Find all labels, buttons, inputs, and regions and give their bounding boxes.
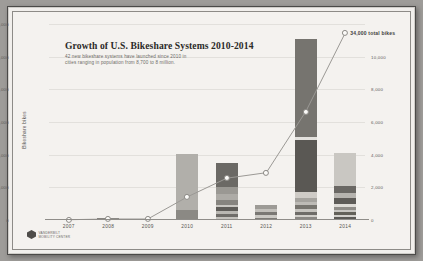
y-axis-left-tick-label: 2,000 xyxy=(0,185,9,190)
y-axis-left-tick-label: 6,000 xyxy=(0,120,9,125)
total-bikes-annotation: 34,000 total bikes xyxy=(350,30,395,36)
x-axis-tick-label: 2014 xyxy=(339,224,351,229)
y-axis-right-tick-label: 8,000 xyxy=(371,87,383,92)
y-axis-left-tick-label: 10,000 xyxy=(0,54,9,59)
y-axis-right-tick-label: 2,000 xyxy=(371,185,383,190)
x-axis-tick-label: 2009 xyxy=(142,224,154,229)
x-axis-tick-label: 2007 xyxy=(63,224,75,229)
title-block: Growth of U.S. Bikeshare Systems 2010-20… xyxy=(65,40,275,67)
chart-inner-frame: Bikeshare bikes 12,00010,0008,0006,0004,… xyxy=(12,11,411,250)
x-axis-tick-label: 2013 xyxy=(300,224,312,229)
x-axis-tick-label: 2010 xyxy=(181,224,193,229)
x-axis-tick-label: 2011 xyxy=(221,224,233,229)
scanned-page: Bikeshare bikes 12,00010,0008,0006,0004,… xyxy=(0,0,423,261)
y-axis-left-tick-label: 4,000 xyxy=(0,152,9,157)
page-title: Growth of U.S. Bikeshare Systems 2010-20… xyxy=(65,40,275,51)
y-axis-right-tick-label: 4,000 xyxy=(371,152,383,157)
logo-line-2: MOBILITY CENTER xyxy=(39,235,71,239)
y-axis-left-tick-label: 8,000 xyxy=(0,87,9,92)
y-axis-left-tick-label: 0 xyxy=(6,218,9,223)
x-axis-tick-label: 2012 xyxy=(260,224,272,229)
subtitle-line-2: cities ranging in population from 8,700 … xyxy=(65,60,275,66)
logo: VANDERBILT MOBILITY CENTER xyxy=(27,230,70,239)
y-axis-left-tick-label: 12,000 xyxy=(0,22,9,27)
chart-paper: Bikeshare bikes 12,00010,0008,0006,0004,… xyxy=(7,6,416,255)
x-axis-tick-label: 2008 xyxy=(102,224,114,229)
hexagon-logo-icon xyxy=(27,230,36,239)
logo-text: VANDERBILT MOBILITY CENTER xyxy=(39,231,71,239)
y-axis-right-tick-label: 6,000 xyxy=(371,120,383,125)
x-axis-line xyxy=(45,219,369,220)
y-axis-label: Bikeshare bikes xyxy=(22,111,27,149)
y-axis-right-tick-label: 0 xyxy=(371,218,374,223)
y-axis-right-tick-label: 10,000 xyxy=(371,54,386,59)
